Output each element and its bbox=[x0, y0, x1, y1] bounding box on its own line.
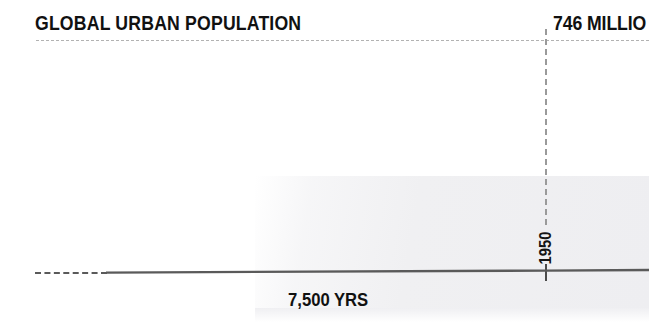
population-trend-line bbox=[106, 264, 649, 274]
page-title: GLOBAL URBAN POPULATION bbox=[35, 11, 301, 35]
year-marker-dashed-line bbox=[545, 29, 547, 225]
baseline-dashed-lead-in bbox=[35, 272, 107, 274]
year-axis-tick-label: 1950 bbox=[537, 231, 555, 264]
population-trend-line-svg bbox=[106, 264, 649, 276]
trend-path bbox=[106, 270, 649, 273]
elapsed-span-label: 7,500 YRS bbox=[288, 288, 368, 312]
urban-population-infographic: GLOBAL URBAN POPULATION 746 MILLIO 1950 … bbox=[0, 0, 649, 332]
value-ceiling-dashed-line bbox=[36, 40, 649, 41]
peak-value-label: 746 MILLIO bbox=[553, 11, 646, 35]
